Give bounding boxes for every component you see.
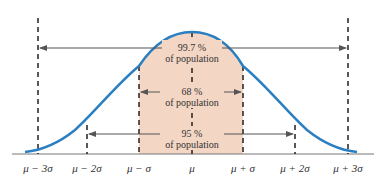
label-68-caption: of population	[165, 97, 219, 108]
tick-label-minus-sigma: μ − σ	[126, 162, 151, 174]
label-997-percent: 99.7 %	[178, 42, 206, 53]
tick-label-plus-3sigma: μ + 3σ	[332, 162, 363, 174]
tick-label-minus-2sigma: μ − 2σ	[71, 162, 102, 174]
tick-label-minus-3sigma: μ − 3σ	[22, 162, 53, 174]
label-997-caption: of population	[165, 53, 219, 64]
label-68-percent: 68 %	[182, 86, 203, 97]
tick-label-plus-2sigma: μ + 2σ	[279, 162, 310, 174]
label-95-caption: of population	[165, 139, 219, 150]
tick-label-plus-sigma: μ + σ	[230, 162, 255, 174]
tick-label-mu: μ	[188, 162, 195, 174]
label-95-percent: 95 %	[182, 128, 203, 139]
normal-distribution-diagram: 99.7 % of population 68 % of population …	[0, 0, 386, 184]
